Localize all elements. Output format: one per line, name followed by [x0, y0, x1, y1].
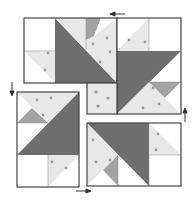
bottom-unit: [87, 123, 181, 186]
left-arrow-icon: [10, 82, 14, 96]
top-arrow-icon: [110, 12, 125, 16]
quilt-block-diagram: [0, 0, 193, 201]
left-unit: [17, 92, 79, 187]
right-arrow-icon: [183, 108, 187, 122]
bottom-arrow-icon: [76, 189, 91, 193]
top-unit: [24, 18, 117, 83]
center-square: [87, 83, 117, 114]
right-unit: [117, 18, 181, 114]
